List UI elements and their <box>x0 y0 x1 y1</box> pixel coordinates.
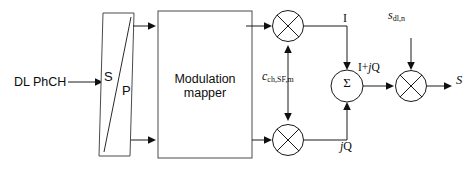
input-label-dl-phch: DL PhCH <box>14 76 66 89</box>
sp-lower-output-arrow <box>131 136 156 144</box>
serial-label: S <box>104 70 113 83</box>
i-branch-label: I <box>343 12 347 24</box>
spreading-code-subscript: ch,SF,m <box>267 75 293 84</box>
i-branch-multiplier <box>273 11 304 42</box>
jq-branch-path <box>304 102 351 140</box>
modulation-mapper-label-line1: Modulation <box>174 72 235 86</box>
mapper-q-output-arrow <box>252 136 272 144</box>
sp-upper-output-arrow <box>133 22 156 30</box>
scrambling-code-label: sdl,n <box>388 9 405 23</box>
summer-output-label-i: I+ <box>358 61 368 73</box>
output-arrow-s <box>427 82 452 90</box>
modulation-mapper-label-line2: mapper <box>184 86 226 100</box>
summer-symbol: Σ <box>337 75 357 91</box>
summer-output-label: I+jQ <box>358 62 380 74</box>
output-label-s: S <box>456 74 462 87</box>
i-branch-path <box>304 26 351 70</box>
scrambling-code-subscript: dl,n <box>393 14 405 23</box>
scrambling-code-feed <box>407 38 415 70</box>
spreading-code-feed-down <box>284 96 292 121</box>
summer-output-label-q: Q <box>372 61 380 73</box>
q-branch-multiplier <box>273 125 304 156</box>
scrambling-multiplier <box>396 71 427 102</box>
jq-branch-label-q: Q <box>343 139 352 153</box>
input-arrow-dl-phch <box>68 78 103 86</box>
summer-output-arrow <box>363 82 394 90</box>
modulation-mapper-label: Modulation mapper <box>160 72 250 100</box>
diagram-canvas: DL PhCH S P Modulation mapper cch,SF,m s… <box>0 0 474 169</box>
spreading-code-label: cch,SF,m <box>262 70 294 84</box>
jq-branch-label: jQ <box>340 140 352 152</box>
parallel-label: P <box>122 84 131 97</box>
